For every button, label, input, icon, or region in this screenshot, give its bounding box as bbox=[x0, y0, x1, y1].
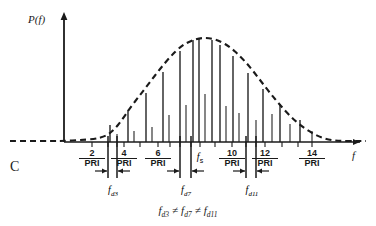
y-axis-label: P(f) bbox=[28, 14, 45, 25]
doppler-arrowhead-right bbox=[257, 168, 262, 173]
doppler-arrowhead-left bbox=[102, 168, 107, 173]
equation-term-1-subscript: d3 bbox=[162, 210, 170, 219]
tick-denominator: PRI bbox=[299, 159, 325, 168]
panel-label: C bbox=[10, 160, 19, 174]
y-axis-arrowhead bbox=[61, 12, 68, 20]
x-axis-label: f bbox=[352, 150, 355, 161]
center-frequency-label: fs bbox=[188, 151, 212, 164]
tick-label-2-over-pri: 2PRI bbox=[79, 149, 105, 169]
spectrum-figure: P(f) f C 2PRI4PRI6PRI10PRI12PRI14PRI fs … bbox=[0, 0, 376, 226]
doppler-arrowhead-right bbox=[192, 168, 197, 173]
doppler-subscript: d3 bbox=[111, 190, 118, 198]
doppler-subscript: d7 bbox=[184, 190, 191, 198]
tick-label-14-over-pri: 14PRI bbox=[299, 149, 325, 169]
inequality-equation: fd3≠fd7≠fd11 bbox=[0, 205, 376, 219]
doppler-subscript: d11 bbox=[248, 190, 258, 198]
doppler-label-d3: fd3 bbox=[93, 184, 133, 198]
equation-term-3-subscript: d11 bbox=[207, 210, 218, 219]
tick-denominator: PRI bbox=[252, 159, 278, 168]
center-frequency-subscript: s bbox=[200, 157, 204, 164]
doppler-arrowhead-left bbox=[240, 168, 245, 173]
x-axis-arrowhead bbox=[353, 139, 360, 145]
doppler-arrowhead-left bbox=[174, 168, 179, 173]
tick-label-4-over-pri: 4PRI bbox=[111, 149, 137, 169]
tick-denominator: PRI bbox=[111, 159, 137, 168]
doppler-arrowhead-right bbox=[118, 168, 123, 173]
tick-denominator: PRI bbox=[145, 159, 171, 168]
equation-operator-1: ≠ bbox=[169, 204, 181, 216]
doppler-label-d7: fd7 bbox=[166, 184, 206, 198]
tick-label-6-over-pri: 6PRI bbox=[145, 149, 171, 169]
spectral-lines-group bbox=[110, 38, 312, 142]
tick-label-10-over-pri: 10PRI bbox=[219, 149, 245, 169]
equation-term-2-subscript: d7 bbox=[184, 210, 192, 219]
tick-denominator: PRI bbox=[79, 159, 105, 168]
axes-group bbox=[61, 12, 360, 145]
tick-denominator: PRI bbox=[219, 159, 245, 168]
equation-operator-2: ≠ bbox=[192, 204, 204, 216]
doppler-label-d11: fd11 bbox=[232, 184, 272, 198]
tick-label-12-over-pri: 12PRI bbox=[252, 149, 278, 169]
